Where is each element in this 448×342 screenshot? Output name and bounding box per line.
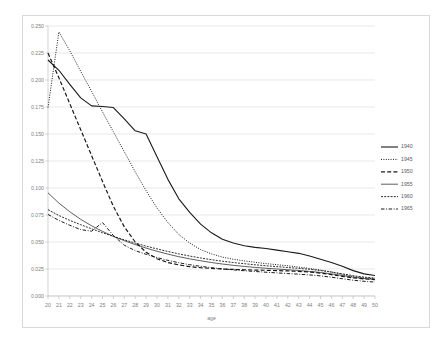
x-axis-tick-label: 25 [100, 302, 106, 308]
x-axis-tick-label: 34 [198, 302, 204, 308]
x-axis-tick-label: 37 [230, 302, 236, 308]
x-axis-tick-label: 26 [111, 302, 117, 308]
x-axis-tick-label: 35 [209, 302, 215, 308]
x-axis-tick-label: 24 [89, 302, 95, 308]
x-axis-tick-label: 41 [274, 302, 280, 308]
legend-label-1960: 1960 [401, 193, 413, 199]
x-axis-tick-label: 45 [318, 302, 324, 308]
line-chart: 0.0000.0250.0500.0750.1000.1250.1500.175… [23, 16, 429, 327]
legend-label-1950: 1950 [401, 168, 413, 174]
x-axis-tick-label: 21 [56, 302, 62, 308]
legend-label-1955: 1955 [401, 181, 413, 187]
x-axis-tick-label: 38 [241, 302, 247, 308]
x-axis-tick-label: 40 [263, 302, 269, 308]
x-axis-tick-label: 20 [45, 302, 51, 308]
y-axis-tick-label: 0.075 [31, 212, 44, 218]
chart-container: 0.0000.0250.0500.0750.1000.1250.1500.175… [22, 15, 430, 328]
y-axis-tick-label: 0.250 [31, 23, 44, 29]
legend-label-1945: 1945 [401, 156, 413, 162]
y-axis-tick-label: 0.175 [31, 104, 44, 110]
legend-label-1965: 1965 [401, 205, 413, 211]
y-axis-tick-label: 0.150 [31, 131, 44, 137]
series-line-1965 [48, 214, 375, 282]
y-axis-tick-label: 0.050 [31, 239, 44, 245]
x-axis-tick-label: 50 [372, 302, 378, 308]
x-axis-tick-label: 36 [220, 302, 226, 308]
x-axis-tick-label: 22 [67, 302, 73, 308]
x-axis-tick-label: 48 [350, 302, 356, 308]
series-line-1955 [48, 193, 375, 280]
y-axis-tick-label: 0.200 [31, 77, 44, 83]
x-axis-tick-label: 32 [176, 302, 182, 308]
y-axis-tick-label: 0.125 [31, 158, 44, 164]
legend-label-1940: 1940 [401, 143, 413, 149]
x-axis-tick-label: 30 [154, 302, 160, 308]
y-axis-tick-label: 0.100 [31, 185, 44, 191]
x-axis-tick-label: 33 [187, 302, 193, 308]
series-line-1950 [48, 53, 375, 280]
x-axis-tick-label: 28 [132, 302, 138, 308]
x-axis-tick-label: 44 [307, 302, 313, 308]
x-axis-tick-label: 31 [165, 302, 171, 308]
x-axis-tick-label: 43 [296, 302, 302, 308]
x-axis-title: age [207, 315, 216, 321]
x-axis-tick-label: 23 [78, 302, 84, 308]
x-axis-tick-label: 47 [339, 302, 345, 308]
x-axis-tick-label: 46 [329, 302, 335, 308]
x-axis-tick-label: 42 [285, 302, 291, 308]
y-axis-tick-label: 0.025 [31, 266, 44, 272]
x-axis-tick-label: 29 [143, 302, 149, 308]
x-axis-tick-label: 27 [121, 302, 127, 308]
y-axis-tick-label: 0.000 [31, 293, 44, 299]
x-axis-tick-label: 39 [252, 302, 258, 308]
y-axis-tick-label: 0.225 [31, 50, 44, 56]
x-axis-tick-label: 49 [361, 302, 367, 308]
